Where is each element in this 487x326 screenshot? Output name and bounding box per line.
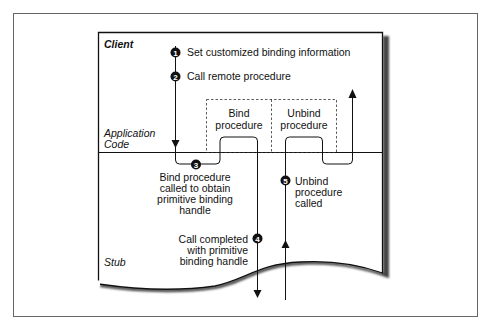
step-3-number: 3 — [194, 161, 199, 170]
stub-label: Stub — [104, 256, 126, 268]
page-left-gap — [97, 281, 100, 287]
step-4-text-line-3: binding handle — [180, 255, 248, 267]
step-4-number: 4 — [255, 235, 260, 244]
step-2-number: 2 — [173, 73, 178, 82]
step-1-text: Set customized binding information — [187, 46, 351, 58]
binding-flow-diagram: Bind procedure Unbind procedure Client A… — [0, 0, 487, 326]
diagram-canvas: Bind procedure Unbind procedure Client A… — [0, 0, 487, 326]
unbind-procedure-label-1: Unbind — [287, 107, 320, 119]
step-5-text-line-3: called — [295, 197, 323, 209]
step-1: 1 Set customized binding information — [171, 46, 351, 58]
step-1-number: 1 — [173, 49, 178, 58]
step-2-text: Call remote procedure — [187, 70, 291, 82]
application-code-label-2: Code — [104, 138, 129, 150]
bind-down-arrow-icon — [254, 290, 262, 298]
step-3-text-line-4: handle — [179, 204, 211, 216]
step-5-number: 5 — [283, 177, 288, 186]
step-2: 2 Call remote procedure — [171, 70, 292, 82]
client-label: Client — [104, 38, 134, 50]
bind-procedure-label-2: procedure — [215, 119, 262, 131]
bind-procedure-label-1: Bind — [228, 107, 249, 119]
unbind-procedure-label-2: procedure — [280, 119, 327, 131]
